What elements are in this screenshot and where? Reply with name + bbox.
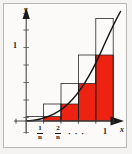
riemann-sum-plot bbox=[0, 0, 132, 154]
fraction-numerator: 2 bbox=[52, 125, 64, 132]
fraction-numerator: 1 bbox=[34, 125, 46, 132]
y-tick-label-one: 1 bbox=[13, 42, 17, 50]
x-tick-label-two-over-n: 2 n bbox=[52, 125, 64, 141]
fraction-denominator: n bbox=[34, 134, 46, 141]
x-tick-label-ellipsis: · · · bbox=[68, 130, 85, 138]
fraction-denominator: n bbox=[52, 134, 64, 141]
figure-container: y x 1 1 n 2 n · · · 1 bbox=[0, 0, 132, 154]
inscribed-rect-3 bbox=[61, 104, 78, 121]
x-tick-label-one-over-n: 1 n bbox=[34, 125, 46, 141]
x-axis-label: x bbox=[120, 126, 124, 134]
y-axis-label: y bbox=[24, 6, 28, 14]
inscribed-rect-5 bbox=[96, 55, 113, 121]
x-tick-label-one: 1 bbox=[103, 128, 107, 136]
